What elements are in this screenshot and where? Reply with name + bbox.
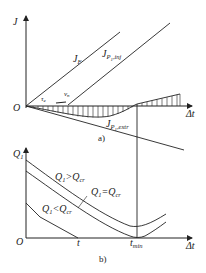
label-q1-eq-qcr: Q1=Qcr <box>91 186 121 198</box>
label-q1-gt-qcr: Q1>Qcr <box>55 171 85 183</box>
panel-a: J O Δt JF JP1,inj JP1,extr τe νn a) <box>13 16 195 238</box>
panel-a-x-label: Δt <box>185 108 195 119</box>
panel-a-y-label: J <box>13 16 18 27</box>
panel-a-caption: a) <box>98 133 105 143</box>
label-jf: JF <box>73 53 82 65</box>
panel-b: Q1 O Δt t tmin Q1>Qcr Q1=Qcr Q1<Qcr b) <box>13 148 195 264</box>
diagram-canvas: J O Δt JF JP1,inj JP1,extr τe νn a) Q1 O… <box>0 0 206 273</box>
label-jp1-extr: JP1,extr <box>106 118 129 132</box>
panel-b-origin: O <box>16 236 23 247</box>
panel-b-caption: b) <box>99 254 107 264</box>
curve-jp1-extr <box>26 106 184 150</box>
curve-jp1-inj <box>68 23 170 105</box>
label-q1-lt-qcr: Q1<Qcr <box>42 203 72 215</box>
tick-t: t <box>77 237 80 248</box>
panel-a-origin: O <box>13 102 20 113</box>
label-nu: νn <box>64 90 70 98</box>
label-tau: τe <box>41 95 47 103</box>
label-jp1-inj: JP1,inj <box>102 48 122 62</box>
tick-tmin: tmin <box>130 237 143 249</box>
panel-b-y-label: Q1 <box>13 148 23 160</box>
nu-arc <box>56 102 66 103</box>
hatch-positive <box>142 94 180 106</box>
panel-b-x-label: Δt <box>185 240 195 251</box>
